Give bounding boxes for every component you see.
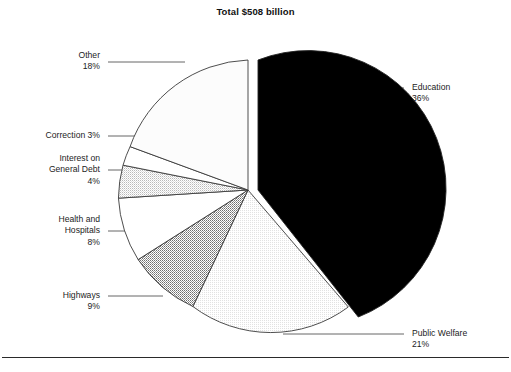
slice-label-education-percent: 36%: [412, 93, 450, 104]
slice-label-interest-percent: 4%: [0, 176, 100, 187]
slice-label-public-welfare: Public Welfare 21%: [412, 328, 467, 351]
slice-label-highways-percent: 9%: [0, 301, 100, 312]
slice-label-other: Other 18%: [0, 50, 100, 73]
slice-label-other-percent: 18%: [0, 61, 100, 72]
pie-chart-figure: Total $508 billion: [0, 0, 511, 372]
slice-label-public-welfare-name: Public Welfare: [412, 328, 467, 339]
slice-label-health-percent: 8%: [0, 237, 100, 248]
slice-label-highways-name: Highways: [0, 290, 100, 301]
slice-label-interest-line1: Interest on: [0, 153, 100, 164]
slice-label-correction: Correction 3%: [0, 130, 100, 141]
bottom-divider-rule: [2, 357, 509, 358]
slice-label-interest-line2: General Debt: [0, 164, 100, 175]
slice-label-education-name: Education: [412, 82, 450, 93]
slice-label-interest-on-general-debt: Interest on General Debt 4%: [0, 153, 100, 187]
slice-label-public-welfare-percent: 21%: [412, 339, 467, 350]
slice-label-health-and-hospitals: Health and Hospitals 8%: [0, 214, 100, 248]
slice-label-health-line2: Hospitals: [0, 225, 100, 236]
slice-label-education: Education 36%: [412, 82, 450, 105]
slice-label-other-name: Other: [0, 50, 100, 61]
slice-label-health-line1: Health and: [0, 214, 100, 225]
slice-label-correction-text: Correction 3%: [0, 130, 100, 141]
slice-label-highways: Highways 9%: [0, 290, 100, 313]
